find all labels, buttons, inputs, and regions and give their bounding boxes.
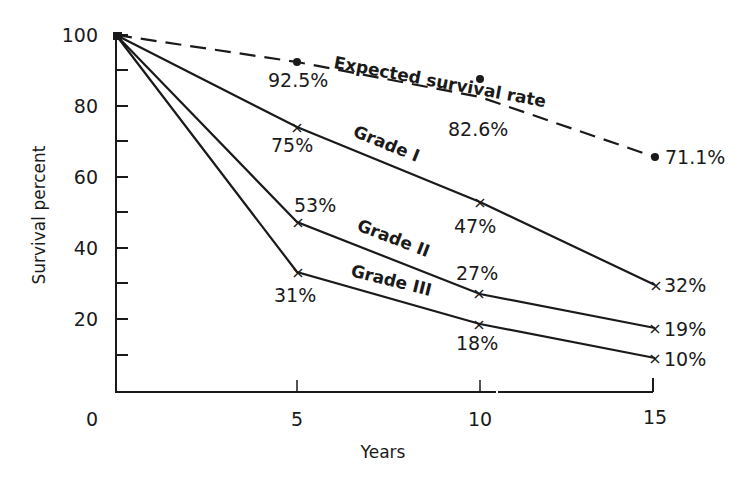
- survival-chart: 100 80 60 40 20 0 5 10 15 Years Survival…: [0, 0, 747, 484]
- xtick-label-10: 10: [468, 408, 492, 430]
- x-marker: ×: [649, 276, 662, 295]
- y-ticks: [116, 35, 128, 355]
- point-label-g3-10: 18%: [456, 332, 498, 354]
- xtick-label-5: 5: [291, 408, 303, 430]
- ytick-label-40: 40: [74, 237, 98, 259]
- dot-marker: [651, 153, 659, 161]
- x-marker: ×: [648, 349, 661, 368]
- point-label-g1-5: 75%: [271, 134, 313, 156]
- point-label-g2-15: 19%: [664, 318, 706, 340]
- axes: [116, 33, 653, 393]
- x-marker: ×: [648, 319, 661, 338]
- xtick-label-15: 15: [643, 406, 667, 428]
- ytick-label-0: 0: [86, 408, 98, 430]
- point-label-g1-15: 32%: [664, 274, 706, 296]
- ytick-label-80: 80: [74, 95, 98, 117]
- x-marker: ×: [473, 193, 486, 212]
- ytick-label-100: 100: [62, 24, 98, 46]
- point-label-g1-10: 47%: [454, 215, 496, 237]
- x-axis-title: Years: [360, 442, 406, 462]
- series-label-expected: Expected survival rate: [332, 52, 547, 111]
- point-label-g3-15: 10%: [664, 348, 706, 370]
- series-label-grade-1: Grade I: [351, 121, 423, 166]
- ytick-label-20: 20: [74, 308, 98, 330]
- series-label-grade-3: Grade III: [349, 260, 434, 299]
- x-ticks: [297, 380, 480, 392]
- series-label-grade-2: Grade II: [355, 215, 433, 261]
- point-label-g2-5: 53%: [294, 194, 336, 216]
- point-label-expected-10: 82.6%: [448, 118, 508, 140]
- x-marker: ×: [291, 263, 304, 282]
- y-axis-title: Survival percent: [29, 145, 49, 284]
- point-label-expected-5: 92.5%: [268, 69, 328, 91]
- point-label-g2-10: 27%: [456, 262, 498, 284]
- dot-marker: [293, 58, 301, 66]
- point-label-g3-5: 31%: [274, 284, 316, 306]
- point-label-expected-15: 71.1%: [665, 146, 725, 168]
- x-marker: ×: [472, 284, 485, 303]
- ytick-label-60: 60: [74, 166, 98, 188]
